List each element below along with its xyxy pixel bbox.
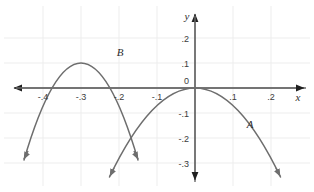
origin-label: 0 <box>184 76 189 86</box>
y-tick-label-pos-2: .2 <box>181 34 189 44</box>
y-tick-label-neg-3: -.3 <box>178 159 189 169</box>
x-tick-label-pos-1: .1 <box>229 92 237 102</box>
y-tick-label-neg-2: -.2 <box>178 134 189 144</box>
x-tick-label-neg-4: -.4 <box>38 92 49 102</box>
x-axis-label: x <box>295 91 301 103</box>
curve-b-label: B <box>117 46 124 58</box>
x-tick-label-neg-2: -.2 <box>114 92 125 102</box>
graph-figure: -.4 -.3 -.2 -.1 .1 .2 .2 .1 -.1 -.2 -.3 … <box>0 0 314 192</box>
y-axis-label: y <box>184 10 190 22</box>
x-tick-label-neg-1: -.1 <box>152 92 163 102</box>
x-tick-label-pos-2: .2 <box>267 92 275 102</box>
curve-a-arrow-right <box>276 168 280 176</box>
parabola-plot: -.4 -.3 -.2 -.1 .1 .2 .2 .1 -.1 -.2 -.3 … <box>0 0 314 192</box>
curve-a-arrow-left <box>110 168 114 176</box>
x-tick-label-neg-3: -.3 <box>76 92 87 102</box>
curve-a-label: A <box>246 118 254 130</box>
y-tick-label-neg-1: -.1 <box>178 109 189 119</box>
y-tick-label-pos-1: .1 <box>181 59 189 69</box>
